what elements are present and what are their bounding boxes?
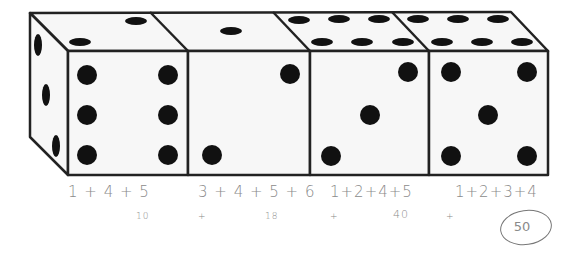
expression-die-1: 1 + 4 + 5: [68, 183, 150, 201]
value-18: 18: [265, 211, 278, 221]
plus-mark-1: +: [198, 211, 207, 221]
die-2-top-pip: [220, 27, 242, 35]
plus-mark-2: +: [330, 211, 339, 221]
value-10: 10: [136, 211, 149, 221]
top-face: [30, 12, 548, 51]
dice-drawing: [0, 0, 578, 256]
expression-die-2: 3 + 4 + 5 + 6: [198, 183, 316, 201]
expression-die-4: 1+2+3+4: [455, 183, 538, 201]
expression-die-3: 1+2+4+5: [330, 183, 413, 201]
value-40: 40: [393, 208, 409, 221]
plus-mark-3: +: [446, 211, 455, 221]
answer-value: 50: [514, 219, 531, 234]
